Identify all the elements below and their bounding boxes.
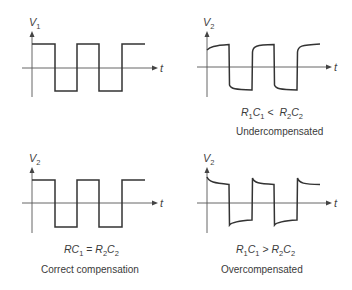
caption-overcompensated: Overcompensated [221, 264, 303, 275]
panel-correct: V2 t [22, 152, 164, 233]
y-axis-arrow-icon [30, 31, 35, 37]
x-axis-label: t [334, 61, 338, 73]
x-axis-arrow-icon [152, 201, 158, 206]
panel-overcompensated: V2 t [197, 152, 338, 233]
x-axis-arrow-icon [326, 201, 332, 206]
y-axis-arrow-icon [205, 167, 210, 173]
condition-correct: RC1 = R2C2 [64, 243, 119, 258]
compensation-diagram: V1 t V2 t V2 t V2 t [0, 0, 352, 290]
caption-undercompensated: Undercompensated [236, 126, 323, 137]
caption-correct: Correct compensation [41, 264, 139, 275]
condition-undercompensated: R1C1 < R2C2 [241, 106, 303, 121]
y-axis-label: V2 [203, 16, 215, 31]
y-axis-arrow-icon [205, 31, 210, 37]
panel-input: V1 t [22, 16, 164, 97]
y-axis-label: V2 [203, 152, 215, 167]
x-axis-label: t [160, 62, 164, 74]
overcompensated-waveform [207, 177, 320, 225]
panel-undercompensated: V2 t [197, 16, 338, 97]
y-axis-arrow-icon [30, 167, 35, 173]
square-waveform [32, 180, 145, 227]
x-axis-label: t [160, 197, 164, 209]
square-waveform [32, 44, 145, 91]
x-axis-arrow-icon [152, 66, 158, 71]
y-axis-label: V1 [29, 16, 41, 31]
x-axis-arrow-icon [326, 65, 332, 70]
y-axis-label: V2 [29, 152, 41, 167]
condition-overcompensated: R1C1 > R2C2 [236, 243, 295, 258]
x-axis-label: t [334, 197, 338, 209]
